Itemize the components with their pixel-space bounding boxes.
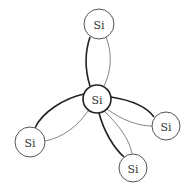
atom-bottom: Si (119, 154, 147, 182)
atom-bottom-label: Si (127, 163, 139, 176)
bond-left-thin-arc (45, 111, 88, 141)
atom-left: Si (15, 127, 45, 157)
atom-right: Si (152, 112, 180, 140)
bond-top (86, 37, 110, 86)
bond-top-thin-arc (104, 37, 110, 86)
bond-bottom-thin-arc (104, 111, 132, 154)
atom-top-label: Si (93, 19, 105, 32)
bond-top-thick-arc (86, 37, 90, 86)
atom-top: Si (84, 9, 114, 39)
atom-center: Si (83, 85, 111, 113)
atom-left-label: Si (24, 137, 36, 150)
silicon-bond-diagram: Si Si Si Si Si (0, 0, 194, 188)
bond-right-thin-arc (107, 109, 152, 126)
bond-bottom (99, 111, 132, 157)
atom-center-label: Si (91, 94, 103, 107)
bond-bottom-thick-arc (99, 113, 124, 157)
bond-left-thick-arc (35, 94, 84, 128)
bond-right-thick-arc (111, 97, 154, 117)
atom-right-label: Si (160, 121, 172, 134)
